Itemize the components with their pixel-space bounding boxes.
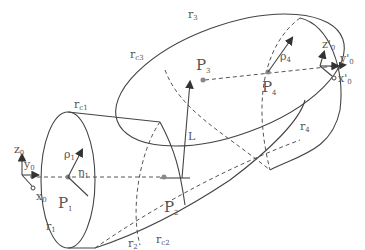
label-x0: x0 [36,190,47,204]
label-rc2: rc2 [156,233,170,247]
label-y0-prime: y'0 [339,52,354,66]
label-p1: P1 [58,194,73,213]
label-x0-prime: x'0 [338,72,352,86]
tube-bend-edge [160,122,185,205]
label-y0: y0 [23,158,35,172]
hidden-curve-4 [95,140,300,248]
label-p4: P4 [262,78,277,97]
label-r4: r4 [300,120,310,134]
label-rc3: rc3 [130,48,144,62]
label-z0: z0 [14,143,24,157]
label-r1: r1 [46,220,56,234]
label-r3: r3 [188,8,198,22]
point-p3 [201,78,206,83]
label-rc1: rc1 [74,98,88,112]
point-p2 [162,175,167,180]
tube-geometry-diagram: P1 P2 P3 P4 r1 r2 r3 r4 rc1 rc2 rc3 ρ1 ρ… [0,0,365,250]
label-rho1: ρ1 [64,148,75,162]
label-r2: r2 [128,237,138,250]
label-p2: P2 [164,198,179,217]
label-z0-prime: z'0 [322,38,335,52]
label-length: L [188,130,196,143]
label-rho4: ρ4 [280,50,291,64]
end-region-ellipse [98,0,361,173]
centerline-upper [205,65,345,80]
label-p3: P3 [196,56,211,75]
hidden-curve-2 [165,70,270,170]
label-eta1: η1 [78,166,89,180]
